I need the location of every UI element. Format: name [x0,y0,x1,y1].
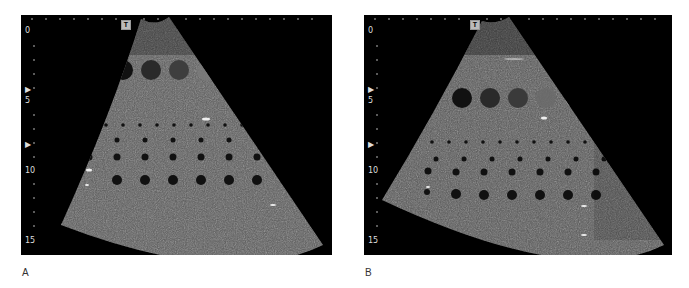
focus-marker-icon: ▶ [25,141,31,149]
ultrasound-panel-b: 0 5 10 15 ▶ ▶ T [364,15,672,255]
focus-marker-icon: ▶ [25,86,31,94]
panel-label-b: B [365,267,372,278]
focus-marker-icon: ▶ [368,141,374,149]
depth-label-5: 5 [368,97,373,105]
panel-label-a: A [22,267,29,278]
depth-label-10: 10 [25,167,35,175]
ultrasound-image-a [21,15,332,255]
depth-label-15: 15 [25,237,35,245]
focus-marker-icon: ▶ [368,86,374,94]
depth-label-0: 0 [368,27,373,35]
depth-label-5: 5 [25,97,30,105]
transducer-orientation-marker: T [121,20,131,30]
transducer-orientation-marker: T [470,20,480,30]
ultrasound-image-b [364,15,672,255]
ultrasound-panel-a: 0 5 10 15 ▶ ▶ T [21,15,332,255]
depth-label-0: 0 [25,27,30,35]
depth-label-15: 15 [368,237,378,245]
depth-label-10: 10 [368,167,378,175]
